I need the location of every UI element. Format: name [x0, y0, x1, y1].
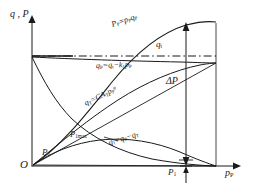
x-axis-label: pP — [225, 168, 233, 179]
label-load-power-max: P1max — [70, 130, 87, 139]
label-p1-axis: P1 — [168, 168, 176, 178]
label-load-power: P1 — [42, 148, 50, 158]
curve-load-flow — [32, 57, 216, 166]
label-pump-flow-equation: qP=qt−k1pP — [96, 61, 132, 71]
y-axis-label: q , P — [10, 9, 29, 19]
y-axis-arrowhead — [28, 15, 35, 23]
x-axis-arrowhead — [233, 163, 241, 170]
label-theoretical-flow: qt — [156, 40, 162, 50]
origin-label: O — [20, 159, 28, 170]
p1-up-arrow — [183, 166, 189, 183]
chart-svg — [0, 0, 253, 191]
figure-canvas: q , P pP O PP=pPqP qt qP=qt−k1pP qT=CATp… — [0, 0, 253, 191]
delta-p-arrow — [183, 22, 190, 166]
label-delta-p: ΔP — [166, 76, 178, 86]
